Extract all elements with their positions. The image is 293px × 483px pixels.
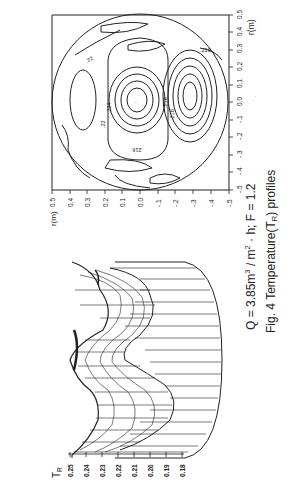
svg-text:0.3: 0.3 <box>236 44 243 53</box>
svg-text:0.1: 0.1 <box>236 79 243 88</box>
svg-text:-.4: -.4 <box>208 199 215 207</box>
svg-text:-.2: -.2 <box>236 132 243 140</box>
svg-text:0.23: 0.23 <box>99 464 106 477</box>
svg-text:0.25: 0.25 <box>67 464 74 477</box>
svg-text:0.4: 0.4 <box>67 198 74 207</box>
svg-text:0.24: 0.24 <box>83 464 90 477</box>
svg-text:-.5: -.5 <box>226 199 233 207</box>
svg-text:0.22: 0.22 <box>115 464 122 477</box>
svg-text:-.1: -.1 <box>236 115 243 123</box>
svg-text:0.21: 0.21 <box>131 464 138 477</box>
svg-text:0.5: 0.5 <box>236 10 243 19</box>
z-axis-label: TR <box>51 467 63 478</box>
svg-text:-.2: -.2 <box>172 199 179 207</box>
svg-text:.216: .216 <box>200 47 211 53</box>
svg-text:0.0: 0.0 <box>137 198 144 207</box>
contour-plot: .22 .224 .22 .216 .216 .218 .218 ◦ 0.5 0… <box>0 0 293 483</box>
svg-text:TR: TR <box>51 467 63 478</box>
svg-text:-.5: -.5 <box>236 185 243 193</box>
svg-text:0.1: 0.1 <box>119 198 126 207</box>
svg-text:0.2: 0.2 <box>102 198 109 207</box>
svg-text:0.2: 0.2 <box>236 62 243 71</box>
x-axis-label: r(m) <box>246 19 256 35</box>
svg-text:0.20: 0.20 <box>147 464 154 477</box>
svg-text:0.19: 0.19 <box>163 464 170 477</box>
svg-text:0.0: 0.0 <box>236 97 243 106</box>
svg-text:.218: .218 <box>162 97 168 108</box>
svg-text:0.4: 0.4 <box>236 27 243 36</box>
svg-text:◦: ◦ <box>135 99 137 105</box>
svg-text:.224: .224 <box>106 102 112 113</box>
svg-text:0.18: 0.18 <box>179 464 186 477</box>
surface-plot <box>70 262 222 458</box>
svg-text:.216: .216 <box>132 147 143 153</box>
svg-text:0.3: 0.3 <box>84 198 91 207</box>
svg-text:-.3: -.3 <box>236 150 243 158</box>
contour-label: .22 <box>85 55 95 64</box>
svg-text:-.4: -.4 <box>236 167 243 175</box>
svg-text:0.5: 0.5 <box>49 198 56 207</box>
scan-speck: ,' <box>253 95 256 101</box>
svg-text:-.1: -.1 <box>155 199 162 207</box>
condition-caption: Q = 3.85m3 / m2 · h; F = 1.2 <box>243 183 258 330</box>
svg-text:-.3: -.3 <box>190 199 197 207</box>
svg-text:.218: .218 <box>169 109 175 120</box>
y-axis-label: r(m) <box>49 211 58 226</box>
figure-caption: Fig. 4 Temperature(TR) profiles <box>264 170 279 333</box>
svg-text:.22: .22 <box>100 120 106 128</box>
